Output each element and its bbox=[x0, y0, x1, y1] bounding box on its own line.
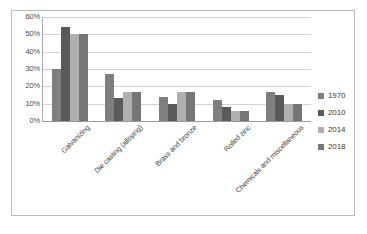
bar bbox=[105, 74, 114, 121]
bar bbox=[123, 92, 132, 121]
bar bbox=[240, 111, 249, 121]
legend-label: 1970 bbox=[328, 91, 345, 100]
legend-item[interactable]: 2014 bbox=[318, 121, 364, 138]
bar bbox=[186, 92, 195, 121]
bar-group bbox=[97, 17, 151, 121]
bar bbox=[266, 92, 275, 121]
y-axis-tick-label: 60% bbox=[14, 13, 40, 21]
bar bbox=[70, 34, 79, 121]
legend-swatch-icon bbox=[318, 127, 324, 133]
bar bbox=[231, 111, 240, 121]
chart-frame: 60%50%40%30%20%10%0% GalvanizingDie cast… bbox=[11, 10, 355, 216]
x-axis-label: Die casting (alloying) bbox=[93, 123, 145, 175]
x-axis-label: Rolled zinc bbox=[222, 123, 252, 153]
bar-series-container bbox=[43, 17, 311, 121]
bar-group bbox=[257, 17, 311, 121]
legend-swatch-icon bbox=[318, 93, 324, 99]
bar-group bbox=[150, 17, 204, 121]
legend-item[interactable]: 2010 bbox=[318, 104, 364, 121]
bar bbox=[275, 95, 284, 121]
bar bbox=[132, 92, 141, 121]
legend-item[interactable]: 2018 bbox=[318, 138, 364, 155]
chart-legend: 1970201020142018 bbox=[318, 87, 364, 155]
bar bbox=[61, 27, 70, 121]
bar bbox=[52, 69, 61, 121]
y-axis-tick-label: 40% bbox=[14, 48, 40, 56]
bar-group bbox=[43, 17, 97, 121]
legend-label: 2018 bbox=[328, 142, 345, 151]
y-axis-tick-label: 10% bbox=[14, 100, 40, 108]
bar bbox=[213, 100, 222, 121]
bar bbox=[293, 104, 302, 121]
x-axis-label: Brass and bronze bbox=[153, 123, 198, 168]
legend-item[interactable]: 1970 bbox=[318, 87, 364, 104]
bar bbox=[168, 104, 177, 121]
legend-label: 2010 bbox=[328, 108, 345, 117]
y-axis: 60%50%40%30%20%10%0% bbox=[14, 17, 40, 121]
chart-plot-wrapper: 60%50%40%30%20%10%0% GalvanizingDie cast… bbox=[12, 11, 354, 215]
bar bbox=[159, 97, 168, 121]
bar bbox=[177, 92, 186, 121]
y-axis-tick-label: 50% bbox=[14, 30, 40, 38]
bar bbox=[284, 104, 293, 121]
bar bbox=[114, 98, 123, 121]
legend-label: 2014 bbox=[328, 125, 345, 134]
legend-swatch-icon bbox=[318, 144, 324, 150]
bar-group bbox=[204, 17, 258, 121]
bar bbox=[222, 107, 231, 121]
x-axis-label: Galvanizing bbox=[59, 123, 91, 155]
y-axis-tick-label: 20% bbox=[14, 82, 40, 90]
bar bbox=[79, 34, 88, 121]
legend-swatch-icon bbox=[318, 110, 324, 116]
y-axis-tick-label: 0% bbox=[14, 117, 40, 125]
x-axis-category-labels: GalvanizingDie casting (alloying)Brass a… bbox=[42, 123, 310, 215]
plot-area bbox=[42, 17, 311, 122]
y-axis-tick-label: 30% bbox=[14, 65, 40, 73]
